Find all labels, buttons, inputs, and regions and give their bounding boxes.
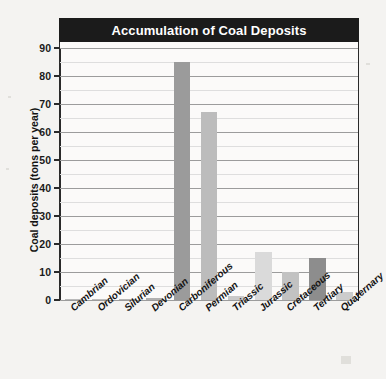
y-tick-label: 10 bbox=[29, 266, 51, 278]
gridline-minor bbox=[60, 62, 358, 63]
y-tick-mark bbox=[54, 103, 59, 105]
y-tick-label: 90 bbox=[29, 42, 51, 54]
y-tick-mark bbox=[54, 243, 59, 245]
y-tick-label: 0 bbox=[29, 294, 51, 306]
gridline-minor bbox=[60, 90, 358, 91]
y-tick-label: 70 bbox=[29, 98, 51, 110]
y-tick-mark bbox=[54, 187, 59, 189]
y-tick-label: 50 bbox=[29, 154, 51, 166]
y-tick-mark bbox=[54, 131, 59, 133]
gridline-major bbox=[60, 104, 358, 105]
gridline-major bbox=[60, 48, 358, 49]
y-tick-label: 60 bbox=[29, 126, 51, 138]
y-tick-mark bbox=[54, 215, 59, 217]
bar-carboniferous bbox=[174, 62, 191, 300]
y-tick-mark bbox=[54, 75, 59, 77]
y-tick-label: 80 bbox=[29, 70, 51, 82]
gridline-major bbox=[60, 76, 358, 77]
y-axis-title: Coal deposits (tons per year) bbox=[28, 60, 40, 300]
scan-artifact bbox=[8, 96, 11, 98]
chart-title: Accumulation of Coal Deposits bbox=[111, 23, 306, 38]
y-tick-mark bbox=[54, 271, 59, 273]
scan-artifact bbox=[6, 168, 9, 170]
y-tick-label: 40 bbox=[29, 182, 51, 194]
plot-area bbox=[60, 48, 358, 300]
y-tick-mark bbox=[54, 159, 59, 161]
y-tick-label: 20 bbox=[29, 238, 51, 250]
y-tick-mark bbox=[54, 47, 59, 49]
chart-title-banner: Accumulation of Coal Deposits bbox=[59, 18, 359, 42]
scan-artifact bbox=[341, 356, 351, 364]
scan-artifact bbox=[366, 63, 370, 65]
y-tick-label: 30 bbox=[29, 210, 51, 222]
y-tick-mark bbox=[54, 299, 59, 301]
